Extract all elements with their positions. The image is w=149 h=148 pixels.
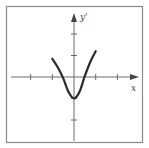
y-axis-label: y' [79,12,88,22]
y-axis-arrow-icon [71,13,77,22]
x-axis-arrow-icon [130,74,139,80]
x-axis-label: x [131,83,136,93]
derivative-graph: x y' [0,0,149,148]
